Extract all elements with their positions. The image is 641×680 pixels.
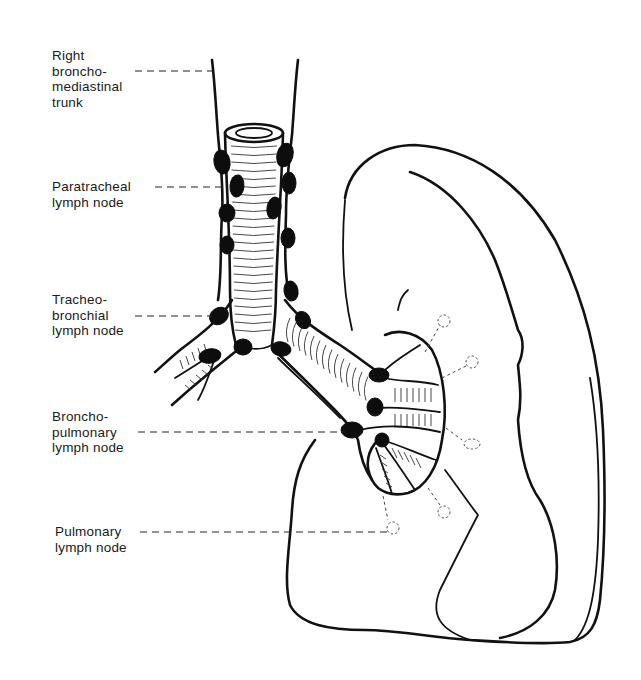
trachea-ring	[234, 266, 274, 268]
trachea-ring	[234, 298, 272, 300]
trachea-ring	[235, 330, 271, 332]
pulmonary-node-outline	[438, 506, 450, 518]
lymph-node	[367, 398, 383, 416]
label-bronchopulmonary-lymph-node: Broncho- pulmonary lymph node	[52, 409, 124, 456]
pulmonary-node-outline	[466, 356, 478, 368]
node-leader	[383, 496, 388, 520]
lung-medial-edge	[343, 200, 352, 330]
bronchus-cartilage-line	[352, 368, 356, 392]
bronchus-cartilage-line	[304, 332, 308, 356]
bronchus-cartilage-line	[286, 318, 290, 342]
pulmonary-node-outline	[387, 522, 399, 534]
bronchus-cartilage-line	[298, 327, 302, 351]
lung-lower-fold	[436, 470, 478, 640]
left-bronchus-hatching	[286, 318, 368, 401]
right-bronchomediastinal-trunk-vessel	[212, 60, 223, 300]
trachea-lumen	[236, 128, 272, 138]
bronchus-cartilage-line	[310, 336, 314, 360]
bronchus-cartilage-line	[340, 359, 344, 383]
label-line: Tracheo-	[52, 292, 124, 308]
lung-hilum-fold	[398, 290, 408, 310]
left-lung	[287, 145, 604, 643]
trachea-ring	[234, 306, 272, 308]
node-leader	[446, 428, 462, 440]
bronchus-cartilage-line	[292, 323, 296, 347]
bronchus-cartilage-line	[316, 341, 320, 365]
pulmonary-node-outline	[438, 315, 450, 327]
label-line: lymph node	[55, 540, 127, 556]
label-right-bronchomediastinal-trunk: Right broncho- mediastinal trunk	[52, 48, 123, 110]
hilum-branch	[378, 407, 440, 412]
pulmonary-node-outline	[464, 439, 480, 449]
label-line: lymph node	[52, 195, 131, 211]
lymph-node	[341, 422, 363, 438]
lymph-node	[369, 368, 389, 382]
leader-lines	[135, 71, 392, 532]
lung-lateral-border	[575, 378, 599, 640]
trachea-ring	[233, 258, 273, 260]
label-line: broncho-	[52, 64, 123, 80]
bronchus-cartilage-line	[346, 363, 350, 387]
hilum-branch	[382, 440, 436, 460]
trachea-ring	[234, 290, 272, 292]
lymph-node	[229, 174, 245, 197]
node-leader	[425, 325, 440, 352]
lymph-node	[212, 149, 232, 175]
bronchus-cartilage-line	[334, 354, 338, 378]
bronchus-cartilage-line	[328, 350, 332, 374]
trachea-ring	[233, 250, 274, 252]
trachea-rings	[231, 146, 277, 332]
label-line: Pulmonary	[55, 524, 127, 540]
trachea-ring	[233, 242, 274, 244]
label-line: Right	[52, 48, 123, 64]
bronchus-cartilage-line	[364, 377, 368, 401]
lung-medial-contour	[410, 172, 557, 638]
lymph-node	[234, 339, 252, 355]
lymph-node	[281, 228, 295, 248]
label-line: lymph node	[52, 323, 124, 339]
label-pulmonary-lymph-node: Pulmonary lymph node	[55, 524, 127, 555]
trachea-top-ring	[225, 124, 283, 142]
label-line: mediastinal	[52, 79, 123, 95]
trachea-ring	[232, 170, 277, 172]
label-line: Paratracheal	[52, 179, 131, 195]
lymph-node	[220, 236, 234, 254]
hilum-branch	[385, 378, 438, 385]
lymph-node	[375, 433, 389, 447]
left-main-bronchus	[272, 300, 378, 480]
lymph-node	[274, 141, 296, 168]
trachea-ring	[234, 274, 273, 276]
trachea-ring	[231, 154, 277, 156]
label-line: pulmonary	[52, 425, 124, 441]
trachea-ring	[233, 234, 274, 236]
label-line: trunk	[52, 95, 123, 111]
label-tracheobronchial-lymph-node: Tracheo- bronchial lymph node	[52, 292, 124, 339]
label-line: bronchial	[52, 308, 124, 324]
label-paratracheal-lymph-node: Paratracheal lymph node	[52, 179, 131, 210]
left-bronchus-inner	[278, 358, 340, 418]
trachea-ring	[233, 226, 275, 228]
node-leader	[428, 488, 440, 505]
bronchus-cartilage-line	[358, 372, 362, 396]
lymph-node	[282, 172, 296, 194]
trachea-ring	[235, 314, 272, 316]
trachea-ring	[235, 322, 272, 324]
trachea-ring	[231, 146, 277, 148]
label-line: Broncho-	[52, 409, 124, 425]
lymph-node	[219, 204, 235, 222]
trachea-ring	[231, 162, 276, 164]
trachea-ring	[234, 282, 273, 284]
hilum-branch	[360, 426, 440, 432]
label-line: lymph node	[52, 440, 124, 456]
node-leader	[442, 366, 466, 378]
bronchus-cartilage-line	[322, 345, 326, 369]
trachea-ring	[233, 218, 275, 220]
